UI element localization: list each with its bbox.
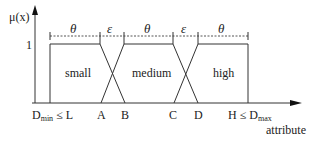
y-tick-one: 1 — [26, 38, 32, 52]
theta-label-2: θ — [144, 21, 151, 36]
region-medium-label: medium — [132, 66, 172, 80]
x-tick-h-le-dmax: H ≤ Dmax — [228, 108, 272, 123]
y-axis-label: μ(x) — [9, 10, 29, 24]
x-tick-c: C — [169, 108, 177, 122]
y-axis-arrow-icon — [32, 5, 38, 15]
region-high-label: high — [213, 66, 234, 80]
theta-label-1: θ — [70, 21, 77, 36]
x-tick-d: D — [194, 108, 203, 122]
x-axis-label: attribute — [266, 123, 306, 137]
epsilon-label-2: ε — [181, 21, 187, 36]
x-tick-a: A — [97, 108, 106, 122]
fuzzy-membership-diagram: μ(x) 1 θ ε θ ε θ small medium high Dmin … — [0, 0, 321, 141]
epsilon-label-1: ε — [107, 21, 113, 36]
x-tick-dmin-le-l: Dmin ≤ L — [32, 108, 73, 123]
region-small-label: small — [65, 66, 92, 80]
x-tick-b: B — [121, 108, 129, 122]
x-axis-arrow-icon — [290, 100, 302, 106]
theta-label-3: θ — [218, 21, 225, 36]
